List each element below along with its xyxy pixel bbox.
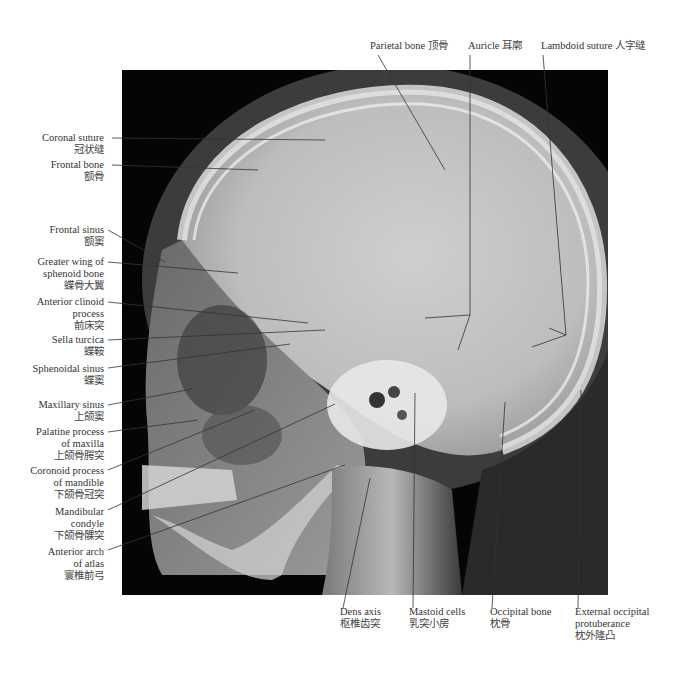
label-en: of atlas <box>48 558 104 570</box>
label-anterior-arch-atlas: Anterior arch of atlas 寰椎前弓 <box>48 546 104 582</box>
label-en: Parietal bone <box>370 40 425 51</box>
label-en: sphenoid bone <box>38 268 104 280</box>
label-en: Coronoid process <box>30 465 104 477</box>
label-occipital-bone: Occipital bone 枕骨 <box>490 606 552 630</box>
label-zh: 前床突 <box>37 320 104 332</box>
label-zh: 寰椎前弓 <box>48 570 104 582</box>
label-zh: 蝶鞍 <box>52 346 104 358</box>
label-zh: 冠状缝 <box>42 144 104 156</box>
label-frontal-sinus: Frontal sinus 额窦 <box>49 224 104 248</box>
label-en: of maxilla <box>36 438 104 450</box>
label-greater-wing-sphenoid: Greater wing of sphenoid bone 蝶骨大翼 <box>38 256 104 292</box>
label-en: condyle <box>54 518 104 530</box>
label-en: Frontal sinus <box>49 224 104 236</box>
skull-xray-image <box>122 70 608 595</box>
label-en: protuberance <box>575 618 649 630</box>
label-en: Auricle <box>468 40 500 51</box>
label-en: External occipital <box>575 606 649 618</box>
label-zh: 额骨 <box>51 171 104 183</box>
label-zh: 枕骨 <box>490 618 552 630</box>
label-zh: 下颌骨冠突 <box>30 489 104 501</box>
label-external-occipital-protuberance: External occipital protuberance 枕外隆凸 <box>575 606 649 642</box>
label-frontal-bone: Frontal bone 额骨 <box>51 159 104 183</box>
label-en: Anterior clinoid <box>37 296 104 308</box>
label-zh: 枕外隆凸 <box>575 630 649 642</box>
label-en: Occipital bone <box>490 606 552 618</box>
label-palatine-process: Palatine process of maxilla 上颌骨腭突 <box>36 426 104 462</box>
label-en: Mastoid cells <box>409 606 465 618</box>
label-sella-turcica: Sella turcica 蝶鞍 <box>52 334 104 358</box>
label-zh: 蝶窦 <box>33 375 104 387</box>
label-sphenoidal-sinus: Sphenoidal sinus 蝶窦 <box>33 363 104 387</box>
label-en: process <box>37 308 104 320</box>
label-en: Greater wing of <box>38 256 104 268</box>
label-en: Palatine process <box>36 426 104 438</box>
label-zh: 下颌骨髁突 <box>54 530 104 542</box>
label-anterior-clinoid-process: Anterior clinoid process 前床突 <box>37 296 104 332</box>
label-mastoid-cells: Mastoid cells 乳突小房 <box>409 606 465 630</box>
label-zh: 乳突小房 <box>409 618 465 630</box>
label-en: Dens axis <box>340 606 381 618</box>
label-en: Frontal bone <box>51 159 104 171</box>
label-zh: 额窦 <box>49 236 104 248</box>
label-en: Lambdoid suture <box>541 40 612 51</box>
label-zh: 枢椎齿突 <box>340 618 381 630</box>
label-lambdoid-suture: Lambdoid suture 人字缝 <box>541 40 645 52</box>
label-mandibular-condyle: Mandibular condyle 下颌骨髁突 <box>54 506 104 542</box>
label-en: of mandible <box>30 477 104 489</box>
label-dens-axis: Dens axis 枢椎齿突 <box>340 606 381 630</box>
label-zh: 蝶骨大翼 <box>38 280 104 292</box>
label-coronoid-process: Coronoid process of mandible 下颌骨冠突 <box>30 465 104 501</box>
label-en: Sella turcica <box>52 334 104 346</box>
label-en: Anterior arch <box>48 546 104 558</box>
label-zh: 上颌窦 <box>38 411 104 423</box>
label-parietal-bone: Parietal bone 顶骨 <box>370 40 448 52</box>
label-zh: 顶骨 <box>428 40 448 51</box>
label-en: Maxillary sinus <box>38 399 104 411</box>
label-en: Mandibular <box>54 506 104 518</box>
label-zh: 人字缝 <box>615 40 645 51</box>
label-coronal-suture: Coronal suture 冠状缝 <box>42 132 104 156</box>
label-en: Coronal suture <box>42 132 104 144</box>
label-zh: 上颌骨腭突 <box>36 450 104 462</box>
label-zh: 耳廓 <box>502 40 522 51</box>
label-auricle: Auricle 耳廓 <box>468 40 522 52</box>
label-maxillary-sinus: Maxillary sinus 上颌窦 <box>38 399 104 423</box>
skull-radiograph <box>122 70 608 595</box>
label-en: Sphenoidal sinus <box>33 363 104 375</box>
